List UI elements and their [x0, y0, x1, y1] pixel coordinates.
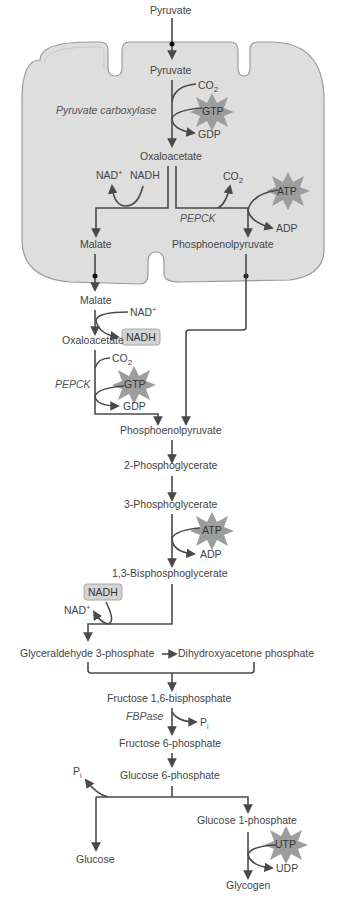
- label-nad-plus-cytosol: NAD+: [130, 306, 156, 318]
- label-nadh-mito: NADH: [130, 169, 160, 181]
- enzyme-pepck-mito: PEPCK: [180, 212, 217, 224]
- label-utp: UTP: [275, 838, 296, 850]
- enzyme-fbpase: FBPase: [126, 710, 164, 722]
- label-nad-plus-2: NAD+: [64, 604, 90, 616]
- label-gtp-2: GTP: [124, 378, 146, 390]
- nad-input-curve: [96, 312, 128, 320]
- label-dhap: Dihydroxyacetone phosphate: [178, 647, 314, 659]
- label-malate-mito: Malate: [80, 238, 112, 250]
- gluconeogenesis-diagram: Pyruvate Pyruvate CO2 GTP GDP Pyruvate c…: [0, 0, 343, 901]
- label-pep-cytosol: Phosphoenolpyruvate: [120, 424, 222, 436]
- label-oaa-cytosol: Oxaloacetate: [62, 334, 124, 346]
- label-malate-cytosol: Malate: [80, 294, 112, 306]
- label-f6p: Fructose 6-phosphate: [119, 737, 221, 749]
- label-bpg: 1,3-Bisphosphoglycerate: [112, 567, 228, 579]
- label-nadh-box-2: NADH: [88, 586, 118, 598]
- label-pi-1: Pi: [200, 716, 209, 730]
- label-pi-2: Pi: [73, 765, 82, 779]
- label-3pg: 3-Phosphoglycerate: [124, 498, 218, 510]
- label-co2-cytosol: CO2: [112, 352, 133, 367]
- enzyme-pepck-cytosol: PEPCK: [55, 378, 92, 390]
- label-g6p: Glucose 6-phosphate: [120, 769, 220, 781]
- label-atp-1: ATP: [277, 185, 297, 197]
- label-udp: UDP: [276, 862, 298, 874]
- co2-input-curve-2: [95, 358, 110, 368]
- label-glucose: Glucose: [76, 853, 115, 865]
- label-g1p: Glucose 1-phosphate: [197, 814, 297, 826]
- label-pyruvate-mito: Pyruvate: [150, 64, 192, 76]
- label-gdp-2: GDP: [123, 400, 146, 412]
- label-oxaloacetate-mito: Oxaloacetate: [140, 150, 202, 162]
- pi-release-curve-1: [172, 712, 196, 722]
- nadh-nad-curve-2: [94, 602, 112, 624]
- enzyme-pyruvate-carboxylase: Pyruvate carboxylase: [56, 104, 157, 116]
- malate-transporter-dot: [93, 274, 98, 279]
- label-pyruvate-cytosol: Pyruvate: [150, 4, 192, 16]
- label-glycogen: Glycogen: [226, 879, 271, 891]
- label-adp-1: ADP: [276, 222, 298, 234]
- merge-bracket: [88, 662, 254, 673]
- label-atp-2: ATP: [202, 524, 222, 536]
- label-gtp-1: GTP: [202, 105, 224, 117]
- transporter-dot: [170, 42, 175, 47]
- label-2pg: 2-Phosphoglycerate: [124, 459, 218, 471]
- label-gdp-1: GDP: [198, 128, 221, 140]
- pi-release-curve-2: [86, 780, 108, 797]
- label-nadh-box-1: NADH: [126, 331, 156, 343]
- arrow-g6p-to-g1p: [96, 786, 248, 812]
- label-adp-2: ADP: [200, 548, 222, 560]
- label-g3p: Glyceraldehyde 3-phosphate: [20, 647, 154, 659]
- label-pep-mito: Phosphoenolpyruvate: [172, 238, 274, 250]
- label-f16bp: Fructose 1,6-bisphosphate: [107, 692, 231, 704]
